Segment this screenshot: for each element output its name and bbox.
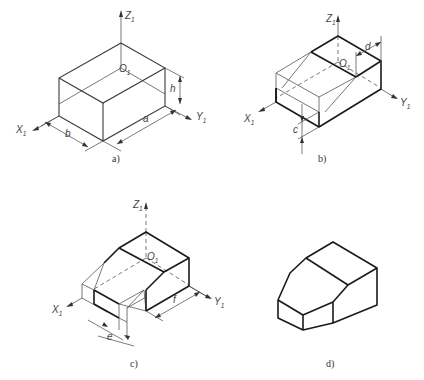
y-axis-arrow-icon — [185, 115, 192, 120]
z-axis-arrow-icon — [144, 202, 148, 209]
construction-line — [276, 88, 319, 112]
origin-label: O1 — [119, 63, 131, 76]
x-axis-arrow-icon — [32, 126, 39, 131]
slant-line — [127, 297, 146, 308]
dim-line-f — [155, 292, 200, 318]
arrow-icon — [375, 42, 381, 47]
isometric-construction-diagram: Z1 O1 X1 Y1 b a h a) — [0, 0, 424, 380]
arrow-icon — [82, 142, 88, 147]
caption-d: d) — [326, 358, 334, 370]
solid-edge — [303, 302, 333, 315]
figure-c: Z1 O1 X1 Y1 e f c) — [51, 199, 225, 370]
arrow-icon — [178, 98, 182, 104]
caption-a: a) — [112, 153, 120, 165]
solid-edge — [94, 304, 119, 318]
dim-label-e: e — [107, 331, 113, 342]
y-axis-arrow-icon — [391, 94, 398, 99]
z-axis-label: Z1 — [132, 199, 143, 212]
dim-label-f: f — [173, 294, 177, 305]
solid-edge — [278, 300, 303, 315]
slant-line — [127, 290, 144, 308]
y-axis-label: Y1 — [214, 296, 225, 309]
figure-d: d) — [278, 242, 377, 370]
arrow-icon — [117, 139, 123, 144]
construction-line — [319, 77, 356, 97]
construction-line — [82, 284, 94, 290]
z-axis-arrow-icon — [336, 15, 340, 22]
solid-edge — [333, 285, 348, 302]
y-axis-label: Y1 — [400, 97, 411, 110]
solid-edge — [94, 290, 119, 304]
x-axis-arrow-icon — [258, 107, 265, 112]
z-axis-arrow-icon — [119, 10, 123, 17]
x-axis-label: X1 — [15, 124, 27, 137]
x-axis-label: X1 — [243, 113, 255, 126]
solid-edge — [164, 258, 189, 272]
solid-ridge — [306, 258, 348, 285]
x-axis-label: X1 — [51, 304, 63, 317]
solid-outline — [278, 242, 377, 330]
figure-b: Z1 O1 X1 Y1 d c b) — [243, 13, 411, 165]
arrow-icon — [45, 122, 51, 127]
dim-ext-line — [85, 141, 103, 151]
z-axis-label: Z1 — [124, 10, 135, 23]
dim-label-c: c — [293, 124, 298, 135]
box-outline — [59, 43, 165, 141]
y-axis — [381, 89, 394, 97]
hidden-x-line — [94, 258, 146, 289]
dim-ext-line — [298, 127, 319, 139]
x-axis-arrow-icon — [66, 302, 73, 307]
arrow-icon — [124, 335, 130, 340]
dim-label-a: a — [143, 113, 149, 124]
figure-a: Z1 O1 X1 Y1 b a h a) — [15, 10, 207, 165]
dim-ext-line — [88, 320, 123, 340]
dim-label-d: d — [365, 41, 371, 52]
y-axis-label: Y1 — [196, 111, 207, 124]
caption-b: b) — [318, 153, 326, 165]
arrow-icon — [170, 110, 176, 115]
z-axis-label: Z1 — [325, 13, 336, 26]
caption-c: c) — [130, 358, 138, 370]
solid-edge — [348, 268, 377, 285]
slant-line — [94, 263, 104, 290]
dim-label-h: h — [170, 83, 176, 94]
solid-edge — [356, 61, 381, 77]
arrow-icon — [155, 313, 161, 318]
construction-line — [119, 304, 127, 322]
slant-line — [282, 52, 311, 88]
dim-ext-line — [165, 68, 184, 78]
solid-edge — [146, 272, 164, 290]
arrow-icon — [194, 292, 200, 297]
dim-label-b: b — [65, 128, 71, 139]
arrow-icon — [356, 51, 362, 56]
arrow-icon — [102, 322, 108, 327]
y-axis-arrow-icon — [205, 294, 212, 299]
